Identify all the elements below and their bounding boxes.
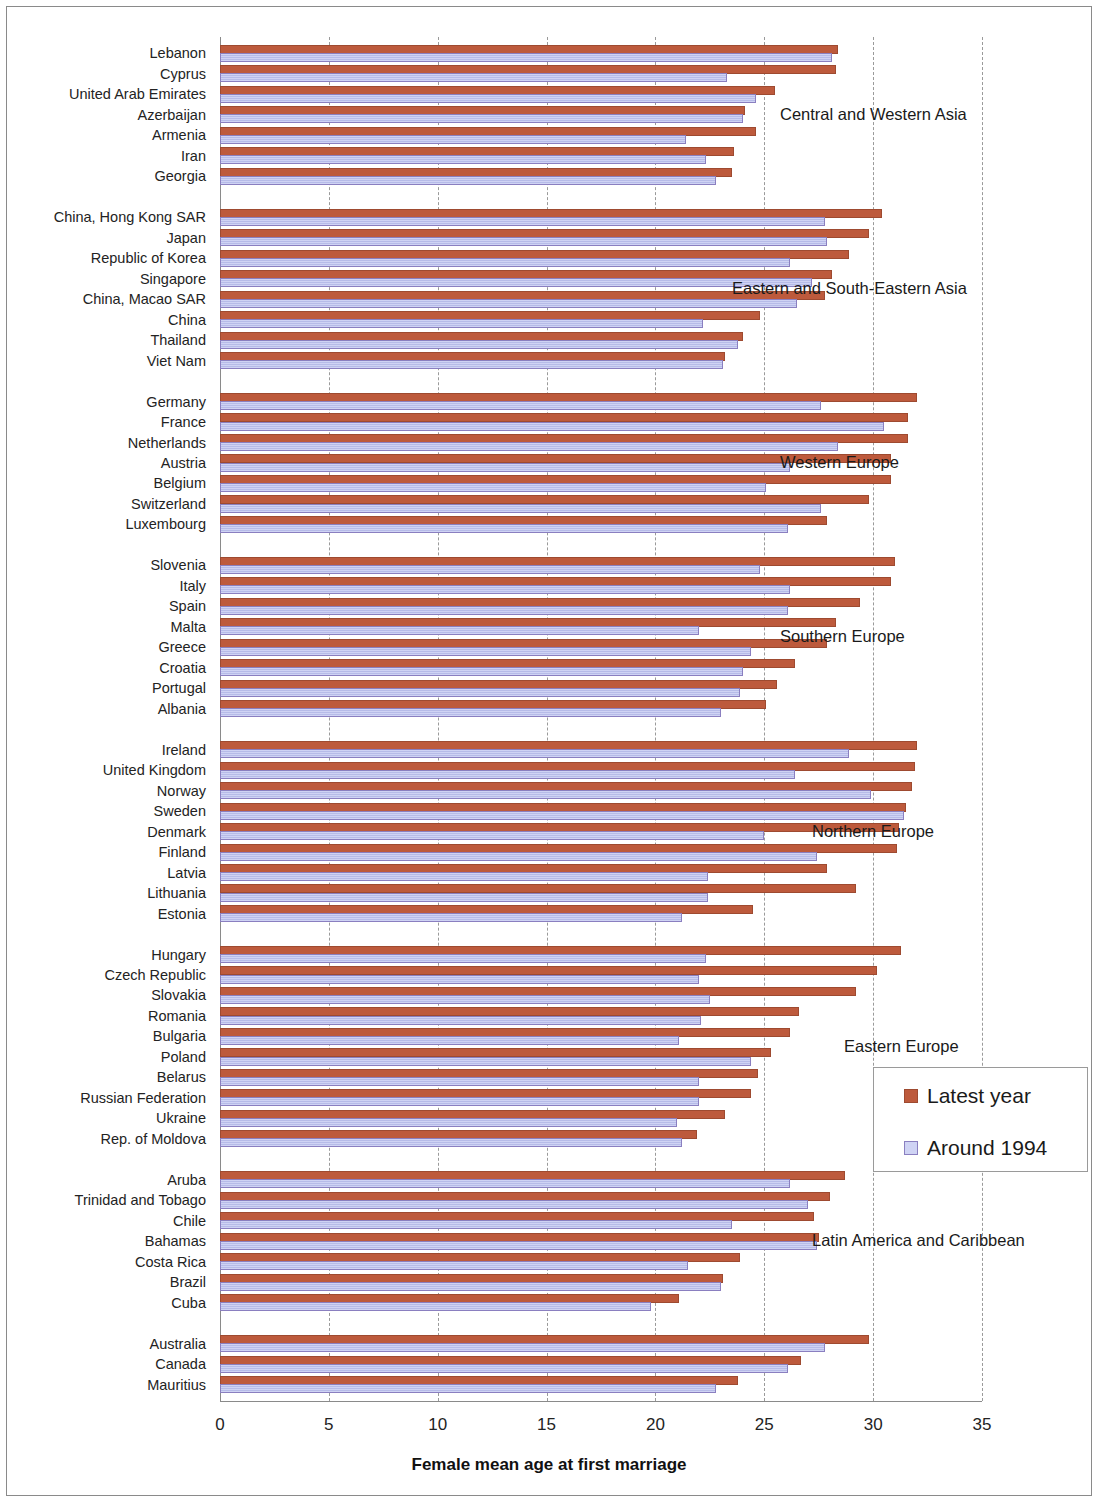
bar-around-1994 bbox=[220, 585, 790, 594]
bar-around-1994 bbox=[220, 401, 821, 410]
category-label: Croatia bbox=[159, 661, 206, 676]
bar-around-1994 bbox=[220, 278, 812, 287]
bar-around-1994 bbox=[220, 626, 699, 635]
bar-around-1994 bbox=[220, 1118, 677, 1127]
bar-around-1994 bbox=[220, 565, 760, 574]
category-axis-labels: LebanonCyprusUnited Arab EmiratesAzerbai… bbox=[7, 37, 214, 1401]
legend-label: Around 1994 bbox=[927, 1136, 1047, 1160]
bar-around-1994 bbox=[220, 831, 764, 840]
category-label: Hungary bbox=[151, 948, 206, 963]
category-label: Bahamas bbox=[145, 1234, 206, 1249]
category-label: Spain bbox=[169, 599, 206, 614]
group-label: Northern Europe bbox=[812, 822, 934, 841]
bar-around-1994 bbox=[220, 319, 703, 328]
bar-around-1994 bbox=[220, 340, 738, 349]
bar-around-1994 bbox=[220, 1220, 732, 1229]
group-label: Eastern and South-Eastern Asia bbox=[732, 279, 967, 298]
bar-around-1994 bbox=[220, 770, 795, 779]
category-label: Japan bbox=[166, 231, 206, 246]
group-label: Southern Europe bbox=[780, 627, 905, 646]
x-axis-line bbox=[220, 1401, 982, 1402]
bar-around-1994 bbox=[220, 94, 756, 103]
group-label: Latin America and Caribbean bbox=[812, 1231, 1025, 1250]
category-label: Chile bbox=[173, 1214, 206, 1229]
category-label: Australia bbox=[150, 1337, 206, 1352]
bar-around-1994 bbox=[220, 463, 790, 472]
bar-around-1994 bbox=[220, 1384, 716, 1393]
bar-around-1994 bbox=[220, 1343, 825, 1352]
category-label: Costa Rica bbox=[135, 1255, 206, 1270]
category-label: Denmark bbox=[147, 825, 206, 840]
bar-around-1994 bbox=[220, 1057, 751, 1066]
x-tick-25: 25 bbox=[755, 1415, 774, 1435]
x-tick-5: 5 bbox=[324, 1415, 333, 1435]
bar-around-1994 bbox=[220, 606, 788, 615]
bar-around-1994 bbox=[220, 258, 790, 267]
category-label: China bbox=[168, 313, 206, 328]
bar-around-1994 bbox=[220, 790, 871, 799]
bar-around-1994 bbox=[220, 237, 827, 246]
category-label: Thailand bbox=[150, 333, 206, 348]
bar-around-1994 bbox=[220, 1138, 682, 1147]
category-label: Portugal bbox=[152, 681, 206, 696]
bar-around-1994 bbox=[220, 73, 727, 82]
category-label: Cyprus bbox=[160, 67, 206, 82]
x-axis-title: Female mean age at first marriage bbox=[7, 1455, 1091, 1475]
category-label: Georgia bbox=[154, 169, 206, 184]
category-label: Finland bbox=[158, 845, 206, 860]
bar-around-1994 bbox=[220, 893, 708, 902]
category-label: Switzerland bbox=[131, 497, 206, 512]
bar-around-1994 bbox=[220, 360, 723, 369]
bar-around-1994 bbox=[220, 442, 838, 451]
category-label: Azerbaijan bbox=[137, 108, 206, 123]
bar-around-1994 bbox=[220, 1097, 699, 1106]
bar-around-1994 bbox=[220, 811, 904, 820]
gridline-30 bbox=[873, 37, 874, 1401]
category-label: United Kingdom bbox=[103, 763, 206, 778]
bar-around-1994 bbox=[220, 1077, 699, 1086]
legend-swatch-blue bbox=[904, 1141, 918, 1155]
bar-around-1994 bbox=[220, 504, 821, 513]
category-label: Belgium bbox=[154, 476, 206, 491]
bar-around-1994 bbox=[220, 913, 682, 922]
category-label: Netherlands bbox=[128, 436, 206, 451]
x-axis-tick-labels: 05101520253035 bbox=[220, 1415, 982, 1441]
category-label: Russian Federation bbox=[80, 1091, 206, 1106]
bar-around-1994 bbox=[220, 1016, 701, 1025]
bar-around-1994 bbox=[220, 1302, 651, 1311]
bar-around-1994 bbox=[220, 708, 721, 717]
category-label: Singapore bbox=[140, 272, 206, 287]
category-label: Luxembourg bbox=[125, 517, 206, 532]
bar-around-1994 bbox=[220, 954, 706, 963]
category-label: Norway bbox=[157, 784, 206, 799]
category-label: Trinidad and Tobago bbox=[75, 1193, 206, 1208]
category-label: France bbox=[161, 415, 206, 430]
bar-around-1994 bbox=[220, 975, 699, 984]
bar-around-1994 bbox=[220, 1200, 808, 1209]
category-label: Rep. of Moldova bbox=[100, 1132, 206, 1147]
category-label: Greece bbox=[158, 640, 206, 655]
x-tick-35: 35 bbox=[973, 1415, 992, 1435]
bar-around-1994 bbox=[220, 114, 743, 123]
legend-item: Latest year bbox=[904, 1084, 1087, 1108]
category-label: Lithuania bbox=[147, 886, 206, 901]
bar-around-1994 bbox=[220, 524, 788, 533]
category-label: Cuba bbox=[171, 1296, 206, 1311]
bar-around-1994 bbox=[220, 299, 797, 308]
category-label: Viet Nam bbox=[147, 354, 206, 369]
category-label: Aruba bbox=[167, 1173, 206, 1188]
category-label: Ukraine bbox=[156, 1111, 206, 1126]
bar-around-1994 bbox=[220, 1241, 817, 1250]
category-label: Belarus bbox=[157, 1070, 206, 1085]
legend-item: Around 1994 bbox=[904, 1136, 1087, 1160]
category-label: Romania bbox=[148, 1009, 206, 1024]
category-label: Republic of Korea bbox=[91, 251, 206, 266]
x-tick-0: 0 bbox=[215, 1415, 224, 1435]
gridline-35 bbox=[982, 37, 983, 1401]
bar-around-1994 bbox=[220, 1282, 721, 1291]
category-label: Mauritius bbox=[147, 1378, 206, 1393]
bar-around-1994 bbox=[220, 1179, 790, 1188]
bar-around-1994 bbox=[220, 1036, 679, 1045]
bar-around-1994 bbox=[220, 872, 708, 881]
category-label: Slovenia bbox=[150, 558, 206, 573]
